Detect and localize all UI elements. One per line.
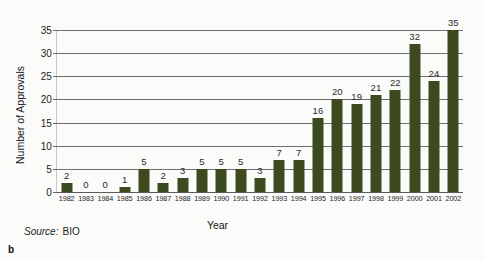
bar-1985 bbox=[119, 187, 130, 192]
bar-1994 bbox=[293, 160, 304, 192]
bar-group-1995: 161995 bbox=[308, 30, 327, 192]
x-tick-label-1989: 1989 bbox=[194, 194, 210, 203]
bar-1986 bbox=[138, 169, 149, 192]
bar-value-1982: 2 bbox=[64, 170, 69, 181]
bar-value-1998: 21 bbox=[371, 82, 382, 93]
bar-value-1988: 3 bbox=[180, 165, 185, 176]
y-axis-title-text: Number of Approvals bbox=[14, 66, 26, 164]
bar-1991 bbox=[235, 169, 246, 192]
x-axis-title-text: Year bbox=[207, 219, 228, 231]
bar-group-2000: 322000 bbox=[405, 30, 424, 192]
bar-value-1991: 5 bbox=[238, 156, 243, 167]
bar-group-1996: 201996 bbox=[328, 30, 347, 192]
bar-1987 bbox=[158, 183, 169, 192]
bar-value-1984: 0 bbox=[103, 179, 108, 190]
bar-value-1985: 1 bbox=[122, 174, 127, 185]
y-axis-title: Number of Approvals bbox=[13, 50, 27, 180]
bar-value-2000: 32 bbox=[409, 31, 420, 42]
bar-value-1986: 5 bbox=[141, 156, 146, 167]
bar-value-1983: 0 bbox=[83, 179, 88, 190]
figure-panel-b: Number of Approvals 05101520253035 21982… bbox=[0, 0, 485, 261]
bar-1989 bbox=[196, 169, 207, 192]
bar-value-1989: 5 bbox=[199, 156, 204, 167]
bar-group-2002: 352002 bbox=[444, 30, 463, 192]
source-value: BIO bbox=[62, 226, 79, 237]
y-tick-label-15: 15 bbox=[41, 117, 52, 128]
bar-group-1986: 51986 bbox=[134, 30, 153, 192]
x-tick-label-1996: 1996 bbox=[330, 194, 346, 203]
bar-value-1997: 19 bbox=[351, 91, 362, 102]
bar-1982 bbox=[61, 183, 72, 192]
bar-1999 bbox=[390, 90, 401, 192]
bar-1998 bbox=[370, 95, 381, 192]
y-tick-label-10: 10 bbox=[41, 140, 52, 151]
bar-group-1987: 21987 bbox=[154, 30, 173, 192]
bar-value-2002: 35 bbox=[448, 17, 459, 28]
x-tick-label-2000: 2000 bbox=[407, 194, 423, 203]
gridline-0 bbox=[57, 192, 463, 193]
bar-1996 bbox=[332, 99, 343, 192]
bar-group-1988: 31988 bbox=[173, 30, 192, 192]
bar-value-1990: 5 bbox=[219, 156, 224, 167]
bar-group-1992: 31992 bbox=[250, 30, 269, 192]
bar-group-1998: 211998 bbox=[366, 30, 385, 192]
x-tick-label-1982: 1982 bbox=[59, 194, 75, 203]
source-label: Source: bbox=[24, 226, 58, 237]
x-tick-label-2002: 2002 bbox=[446, 194, 462, 203]
y-tick-label-30: 30 bbox=[41, 48, 52, 59]
panel-label: b bbox=[8, 244, 14, 255]
bar-group-1985: 11985 bbox=[115, 30, 134, 192]
bar-group-1994: 71994 bbox=[289, 30, 308, 192]
bar-2000 bbox=[409, 44, 420, 192]
y-tick-label-5: 5 bbox=[46, 163, 52, 174]
bar-value-1992: 3 bbox=[257, 165, 262, 176]
y-tick-mark-0 bbox=[53, 192, 57, 193]
x-tick-label-1991: 1991 bbox=[233, 194, 249, 203]
bar-group-1984: 01984 bbox=[96, 30, 115, 192]
x-tick-label-1990: 1990 bbox=[214, 194, 230, 203]
y-tick-label-25: 25 bbox=[41, 71, 52, 82]
y-tick-label-0: 0 bbox=[46, 187, 52, 198]
x-tick-label-1993: 1993 bbox=[272, 194, 288, 203]
bar-group-1999: 221999 bbox=[386, 30, 405, 192]
y-tick-label-20: 20 bbox=[41, 94, 52, 105]
x-tick-label-1986: 1986 bbox=[136, 194, 152, 203]
x-tick-label-1997: 1997 bbox=[349, 194, 365, 203]
bar-group-2001: 242001 bbox=[424, 30, 443, 192]
x-tick-label-1987: 1987 bbox=[156, 194, 172, 203]
bar-2001 bbox=[428, 81, 439, 192]
plot-area: 05101520253035 2198201983019841198551986… bbox=[57, 30, 463, 192]
x-tick-label-1995: 1995 bbox=[310, 194, 326, 203]
bar-2002 bbox=[448, 30, 459, 192]
bar-1990 bbox=[216, 169, 227, 192]
bar-1993 bbox=[274, 160, 285, 192]
bar-group-1993: 71993 bbox=[270, 30, 289, 192]
bar-1988 bbox=[177, 178, 188, 192]
source-note: Source:BIO bbox=[24, 226, 80, 237]
bar-group-1990: 51990 bbox=[212, 30, 231, 192]
bar-series: 2198201983019841198551986219873198851989… bbox=[57, 30, 463, 192]
x-tick-label-1992: 1992 bbox=[252, 194, 268, 203]
bar-value-1987: 2 bbox=[161, 170, 166, 181]
bar-group-1983: 01983 bbox=[76, 30, 95, 192]
bar-value-1995: 16 bbox=[313, 105, 324, 116]
bar-1997 bbox=[351, 104, 362, 192]
bar-group-1982: 21982 bbox=[57, 30, 76, 192]
bar-value-1999: 22 bbox=[390, 77, 401, 88]
bar-1992 bbox=[254, 178, 265, 192]
bar-group-1989: 51989 bbox=[192, 30, 211, 192]
x-tick-label-1994: 1994 bbox=[291, 194, 307, 203]
x-tick-label-1984: 1984 bbox=[98, 194, 114, 203]
bar-group-1997: 191997 bbox=[347, 30, 366, 192]
bar-1995 bbox=[312, 118, 323, 192]
x-tick-label-1983: 1983 bbox=[78, 194, 94, 203]
bar-value-2001: 24 bbox=[429, 68, 440, 79]
x-tick-label-1999: 1999 bbox=[388, 194, 404, 203]
x-tick-label-2001: 2001 bbox=[426, 194, 442, 203]
y-tick-label-35: 35 bbox=[41, 25, 52, 36]
x-tick-label-1985: 1985 bbox=[117, 194, 133, 203]
x-tick-label-1998: 1998 bbox=[368, 194, 384, 203]
bar-value-1993: 7 bbox=[277, 147, 282, 158]
x-tick-label-1988: 1988 bbox=[175, 194, 191, 203]
bar-group-1991: 51991 bbox=[231, 30, 250, 192]
